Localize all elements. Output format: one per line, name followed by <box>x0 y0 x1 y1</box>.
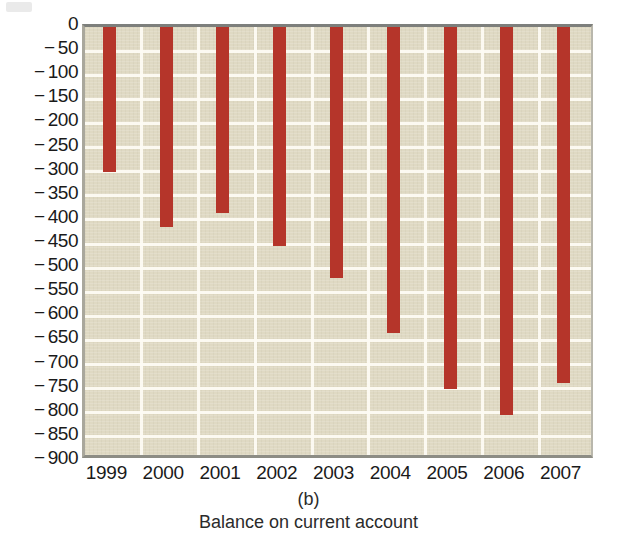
x-axis-tick-labels: 199920002001200220032004200520062007 <box>82 462 593 490</box>
x-axis-tick-label: 2007 <box>540 462 581 484</box>
figure-panel-b: 0− 50− 100− 150− 200− 250− 300− 350− 400… <box>0 0 617 541</box>
y-axis-tick-label: − 650 <box>4 326 78 348</box>
bar-2003 <box>330 27 343 278</box>
bar-2001 <box>216 27 229 213</box>
bar-2005 <box>444 27 457 389</box>
panel-label: (b) <box>0 489 617 510</box>
y-axis-tick-label: − 300 <box>4 158 78 180</box>
gridline-vertical <box>424 27 427 455</box>
x-axis-tick-label: 2003 <box>313 462 354 484</box>
figure-caption: Balance on current account <box>0 512 617 533</box>
gridline-vertical <box>481 27 484 455</box>
gridline-horizontal <box>85 411 591 414</box>
y-axis-tick-label: − 600 <box>4 302 78 324</box>
y-axis-tick-label: − 800 <box>4 399 78 421</box>
x-axis-tick-label: 2006 <box>483 462 524 484</box>
gridline-vertical <box>538 27 541 455</box>
y-axis-tick-label: − 350 <box>4 182 78 204</box>
gridline-horizontal <box>85 291 591 294</box>
gridline-horizontal <box>85 363 591 366</box>
y-axis-tick-label: − 900 <box>4 447 78 469</box>
x-axis-tick-label: 2002 <box>256 462 297 484</box>
y-axis-tick-label: 0 <box>4 13 78 35</box>
y-axis-tick-label: − 250 <box>4 134 78 156</box>
y-axis-tick-labels: 0− 50− 100− 150− 200− 250− 300− 350− 400… <box>0 24 78 458</box>
gridline-vertical <box>367 27 370 455</box>
gridline-horizontal <box>85 315 591 318</box>
y-axis-tick-label: − 100 <box>4 61 78 83</box>
x-axis-tick-label: 2000 <box>143 462 184 484</box>
x-axis-tick-label: 1999 <box>86 462 127 484</box>
y-axis-tick-label: − 150 <box>4 85 78 107</box>
y-axis-tick-label: − 200 <box>4 109 78 131</box>
corner-artifact-mark <box>6 2 32 12</box>
x-axis-tick-label: 2001 <box>199 462 240 484</box>
gridline-horizontal <box>85 339 591 342</box>
bar-2007 <box>557 27 570 383</box>
gridline-vertical <box>140 27 143 455</box>
y-axis-tick-label: − 500 <box>4 254 78 276</box>
bar-2004 <box>387 27 400 333</box>
gridline-vertical <box>311 27 314 455</box>
y-axis-tick-label: − 750 <box>4 375 78 397</box>
y-axis-tick-label: − 850 <box>4 423 78 445</box>
bar-2002 <box>273 27 286 246</box>
y-axis-tick-label: − 450 <box>4 230 78 252</box>
gridline-horizontal <box>85 387 591 390</box>
y-axis-tick-label: − 700 <box>4 351 78 373</box>
y-axis-tick-label: − 400 <box>4 206 78 228</box>
bar-1999 <box>103 27 116 172</box>
y-axis-tick-label: − 50 <box>4 37 78 59</box>
bar-2006 <box>500 27 513 415</box>
x-axis-tick-label: 2005 <box>427 462 468 484</box>
bar-2000 <box>160 27 173 227</box>
x-axis-tick-label: 2004 <box>370 462 411 484</box>
gridline-horizontal <box>85 435 591 438</box>
y-axis-tick-label: − 550 <box>4 278 78 300</box>
plot-area <box>82 24 593 458</box>
gridline-vertical <box>197 27 200 455</box>
gridline-vertical <box>254 27 257 455</box>
